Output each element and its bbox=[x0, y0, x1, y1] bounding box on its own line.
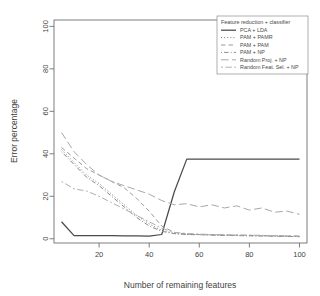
y-axis-ticks: 020406080100 bbox=[41, 20, 54, 241]
legend-label-0: PCA + LDA bbox=[240, 27, 268, 33]
series-group bbox=[62, 133, 300, 237]
legend-label-5: Random Feat. Sel. + NP bbox=[240, 64, 299, 70]
legend-label-4: Random Proj. + NP bbox=[240, 57, 287, 63]
y-tick-label: 40 bbox=[41, 150, 50, 158]
chart-figure: 020406080100 20406080100 Number of remai… bbox=[0, 0, 320, 296]
y-tick-label: 100 bbox=[41, 20, 50, 33]
y-tick-label: 0 bbox=[41, 237, 50, 241]
y-tick-label: 60 bbox=[41, 107, 50, 115]
x-tick-label: 20 bbox=[95, 250, 103, 259]
figure-top-caption bbox=[0, 0, 320, 9]
series-line-5 bbox=[62, 181, 300, 236]
series-line-4 bbox=[62, 133, 300, 215]
x-tick-label: 60 bbox=[195, 250, 203, 259]
x-axis-ticks: 20406080100 bbox=[95, 243, 306, 259]
y-tick-label: 20 bbox=[41, 192, 50, 200]
chart-legend[interactable]: Feature reduction + classifierPCA + LDAP… bbox=[217, 16, 308, 74]
legend-label-3: PAM + NP bbox=[240, 49, 265, 55]
x-tick-label: 100 bbox=[293, 250, 306, 259]
legend-label-1: PAM + PAMR bbox=[240, 34, 273, 40]
y-axis-title: Error percentage bbox=[9, 99, 19, 163]
y-tick-label: 80 bbox=[41, 65, 50, 73]
series-line-3 bbox=[62, 152, 300, 237]
legend-title: Feature reduction + classifier bbox=[221, 19, 291, 25]
series-line-1 bbox=[62, 150, 300, 237]
x-tick-label: 40 bbox=[145, 250, 153, 259]
series-line-0 bbox=[62, 159, 300, 236]
x-tick-label: 80 bbox=[245, 250, 253, 259]
series-line-2 bbox=[62, 147, 300, 236]
line-chart: 020406080100 20406080100 Number of remai… bbox=[0, 0, 320, 296]
x-axis-title: Number of remaining features bbox=[124, 280, 236, 290]
legend-label-2: PAM + PAM bbox=[240, 42, 269, 48]
